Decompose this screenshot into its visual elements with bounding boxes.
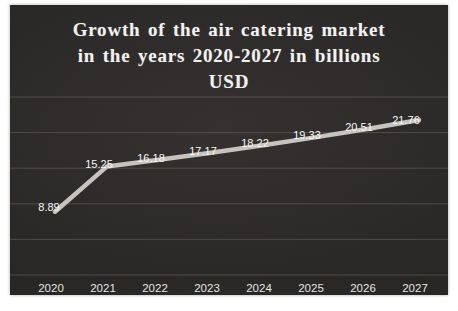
x-axis-label: 2022 <box>142 282 168 294</box>
data-label: 16.18 <box>137 152 165 164</box>
chart-title-line-3: USD <box>10 69 448 95</box>
chart-container: Growth of the air catering market in the… <box>10 5 448 295</box>
x-axis-label: 2026 <box>350 282 376 294</box>
x-axis-label: 2025 <box>298 282 324 294</box>
x-axis-label: 2027 <box>402 282 428 294</box>
chart-title-line-1: Growth of the air catering market <box>10 17 448 43</box>
data-label: 8.89 <box>38 201 59 213</box>
data-label: 19.33 <box>293 129 321 141</box>
data-label: 21.76 <box>392 114 420 126</box>
data-label: 15.25 <box>85 158 113 170</box>
x-axis-label: 2020 <box>38 282 64 294</box>
x-axis-label: 2023 <box>194 282 220 294</box>
page-background: Growth of the air catering market in the… <box>0 0 458 311</box>
chart-title-line-2: in the years 2020-2027 in billions <box>10 43 448 69</box>
data-label: 18.22 <box>241 137 269 149</box>
chart-title: Growth of the air catering market in the… <box>10 5 448 95</box>
data-label: 20.51 <box>345 121 373 133</box>
x-axis-label: 2024 <box>246 282 272 294</box>
data-label: 17.17 <box>189 145 217 157</box>
x-axis-label: 2021 <box>90 282 116 294</box>
